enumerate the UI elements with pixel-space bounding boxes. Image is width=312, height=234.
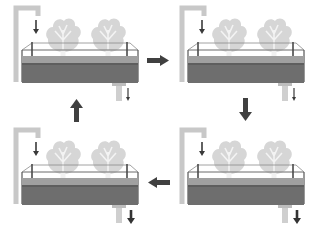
arrow-up-icon: [70, 99, 83, 122]
arrow-down-icon: [239, 98, 252, 121]
drain-arrow-icon: [126, 88, 130, 101]
arrow-right-icon: [147, 55, 169, 66]
arrow-left-icon: [148, 177, 170, 188]
hydroponic-cycle-diagram: [0, 0, 312, 234]
drain-arrow-icon: [293, 210, 301, 224]
stage-1-tank: [16, 8, 138, 101]
drain-arrow-icon: [292, 88, 296, 101]
stage-3-tank: [182, 130, 304, 224]
stage-2-tank: [182, 8, 304, 101]
drain-arrow-icon: [127, 210, 135, 224]
stage-4-tank: [16, 130, 138, 224]
